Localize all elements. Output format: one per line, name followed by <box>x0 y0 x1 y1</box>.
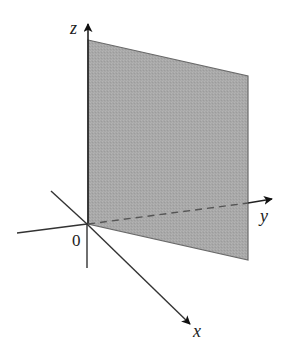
x-axis-negative <box>51 191 87 224</box>
yz-plane <box>88 40 248 260</box>
origin-label: 0 <box>72 231 81 250</box>
z-axis-label: z <box>69 18 77 38</box>
y-axis-label: y <box>258 206 268 226</box>
y-axis <box>248 199 272 203</box>
coordinate-diagram: z y x 0 <box>0 0 290 357</box>
x-axis-label: x <box>192 321 201 341</box>
diagram-canvas: z y x 0 <box>0 0 290 357</box>
